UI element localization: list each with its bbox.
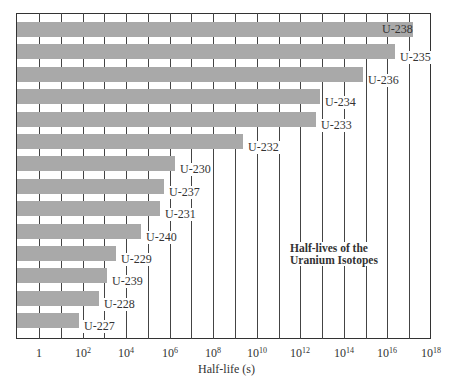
gridline bbox=[170, 13, 171, 339]
annotation-line-2: Uranium Isotopes bbox=[290, 254, 378, 266]
x-tick-label: 1 bbox=[36, 346, 42, 361]
bar-label: U-235 bbox=[399, 51, 432, 64]
bar-u-227 bbox=[17, 313, 79, 328]
x-tick-label: 104 bbox=[118, 346, 134, 361]
bar-u-230 bbox=[17, 156, 175, 171]
chart-annotation: Half-lives of the Uranium Isotopes bbox=[288, 242, 380, 266]
gridline bbox=[344, 13, 345, 339]
bar-u-235 bbox=[17, 44, 395, 59]
bar-u-237 bbox=[17, 179, 164, 194]
bar-label: U-228 bbox=[103, 298, 136, 311]
bar-label: U-230 bbox=[179, 163, 212, 176]
bar-u-228 bbox=[17, 291, 99, 306]
gridline bbox=[104, 13, 105, 339]
bar-label: U-240 bbox=[145, 231, 178, 244]
gridline bbox=[366, 13, 367, 339]
bar-u-233 bbox=[17, 112, 316, 127]
bar-label: U-236 bbox=[367, 74, 400, 87]
x-tick-label: 1012 bbox=[290, 346, 310, 361]
gridline bbox=[191, 13, 192, 339]
bar-u-236 bbox=[17, 67, 363, 82]
bar-label: U-233 bbox=[320, 119, 353, 132]
bar-label: U-234 bbox=[324, 96, 357, 109]
bar-label: U-237 bbox=[168, 186, 201, 199]
bar-u-229 bbox=[17, 246, 116, 261]
gridline bbox=[126, 13, 127, 339]
x-tick-label: 106 bbox=[162, 346, 178, 361]
half-life-chart: U-238U-235U-236U-234U-233U-232U-230U-237… bbox=[0, 0, 451, 386]
gridline bbox=[322, 13, 323, 339]
bar-u-239 bbox=[17, 268, 107, 283]
bar-u-232 bbox=[17, 134, 243, 149]
x-axis-title: Half-life (s) bbox=[198, 362, 255, 377]
bar-label: U-238 bbox=[381, 23, 414, 36]
x-tick-label: 1010 bbox=[247, 346, 267, 361]
bar-u-240 bbox=[17, 224, 141, 239]
gridline bbox=[279, 13, 280, 339]
x-tick-label: 108 bbox=[205, 346, 221, 361]
x-tick-label: 1016 bbox=[377, 346, 397, 361]
bar-label: U-232 bbox=[247, 141, 280, 154]
bar-u-231 bbox=[17, 201, 160, 216]
x-tick-label: 1018 bbox=[421, 346, 441, 361]
gridline bbox=[213, 13, 214, 339]
x-tick-label: 1014 bbox=[334, 346, 354, 361]
bar-label: U-231 bbox=[164, 208, 197, 221]
gridline bbox=[387, 13, 388, 339]
gridline bbox=[235, 13, 236, 339]
x-tick-label: 102 bbox=[75, 346, 91, 361]
annotation-line-1: Half-lives of the bbox=[290, 242, 378, 254]
gridline bbox=[300, 13, 301, 339]
bar-label: U-239 bbox=[111, 275, 144, 288]
bar-label: U-227 bbox=[83, 320, 116, 333]
bar-u-234 bbox=[17, 89, 320, 104]
gridline bbox=[257, 13, 258, 339]
bar-label: U-229 bbox=[120, 253, 153, 266]
gridline bbox=[148, 13, 149, 339]
bar-u-238 bbox=[17, 22, 413, 37]
